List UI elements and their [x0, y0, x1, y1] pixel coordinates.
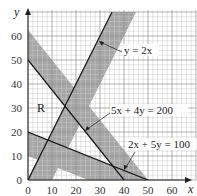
y-tick-label: 60 — [11, 30, 23, 42]
x-tick-labels: 0102030405060 — [25, 184, 178, 196]
equation-label: 5x + 4y = 200 — [111, 104, 173, 116]
x-tick-label: 20 — [71, 184, 83, 196]
y-tick-label: 0 — [17, 174, 23, 186]
x-tick-label: 0 — [25, 184, 31, 196]
equation-label: y = 2x — [124, 44, 153, 56]
x-tick-label: 30 — [95, 184, 107, 196]
y-tick-label: 30 — [11, 102, 23, 114]
shaded-bands — [28, 12, 148, 180]
y-tick-label: 50 — [11, 54, 23, 66]
y-tick-label: 10 — [11, 150, 23, 162]
x-axis-label: x — [187, 182, 194, 196]
y-axis-label: y — [13, 5, 20, 19]
x-tick-label: 50 — [143, 184, 155, 196]
y-tick-label: 40 — [11, 78, 23, 90]
graph: 0102030405060 0102030405060 x y R y = 2x… — [0, 0, 197, 196]
equation-label: 2x + 5y = 100 — [128, 138, 190, 150]
x-tick-label: 40 — [119, 184, 131, 196]
y-tick-labels: 0102030405060 — [11, 30, 23, 186]
y-tick-label: 20 — [11, 126, 23, 138]
x-tick-label: 10 — [47, 184, 59, 196]
region-label: R — [37, 101, 45, 115]
x-tick-label: 60 — [167, 184, 179, 196]
y-axis-arrow-icon — [25, 8, 31, 15]
